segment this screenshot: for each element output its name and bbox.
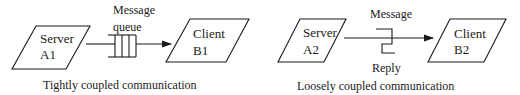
server-a1-label-line2: A1 bbox=[40, 47, 56, 62]
client-b2-label-line1: Client bbox=[454, 26, 486, 41]
communication-diagrams: Server A1 Message queue Client B1 Tightl… bbox=[0, 0, 520, 95]
reply-label: Reply bbox=[372, 61, 401, 75]
server-a2-label-line2: A2 bbox=[303, 42, 319, 57]
client-b1-label-line1: Client bbox=[193, 26, 225, 41]
client-b2-label-line2: B2 bbox=[454, 42, 469, 57]
message-queue-label-line1: Message bbox=[113, 3, 155, 17]
tightly-coupled-diagram: Server A1 Message queue Client B1 Tightl… bbox=[12, 3, 249, 92]
tightly-coupled-caption: Tightly coupled communication bbox=[43, 78, 197, 92]
client-b1-label-line2: B1 bbox=[193, 43, 208, 58]
loosely-coupled-caption: Loosely coupled communication bbox=[297, 79, 454, 93]
server-a2-label-line1: Server bbox=[303, 25, 338, 40]
message-label: Message bbox=[370, 7, 412, 21]
message-queue-icon bbox=[108, 35, 136, 57]
loosely-coupled-diagram: Server A2 Message Reply Client B2 Loosel… bbox=[278, 7, 506, 93]
message-queue-label-line2: queue bbox=[113, 20, 142, 34]
server-a1-label-line1: Server bbox=[40, 31, 75, 46]
message-reply-bracket-icon bbox=[376, 29, 395, 53]
